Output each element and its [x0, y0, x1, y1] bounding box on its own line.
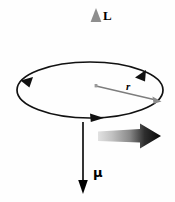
angular-momentum-vector-L [91, 8, 102, 90]
label-magnetic-moment: μ [93, 166, 103, 179]
rotation-direction-arrow [98, 124, 161, 149]
rotation-arrow-body [98, 124, 161, 149]
magnetic-moment-arrowhead-icon [78, 180, 88, 194]
angular-momentum-arrowhead-icon [91, 8, 102, 22]
loop-arrowhead-bottom-icon [90, 114, 104, 122]
physics-diagram-figure: L r μ [0, 0, 175, 202]
diagram-canvas [0, 0, 175, 202]
label-angular-momentum: L [103, 9, 112, 22]
loop-ellipse [17, 62, 163, 118]
label-radius: r [126, 81, 130, 92]
loop-arrowhead-right-icon [135, 70, 146, 82]
current-loop [17, 62, 163, 122]
magnetic-moment-vector-mu [78, 122, 88, 194]
loop-center-marker [95, 84, 98, 87]
